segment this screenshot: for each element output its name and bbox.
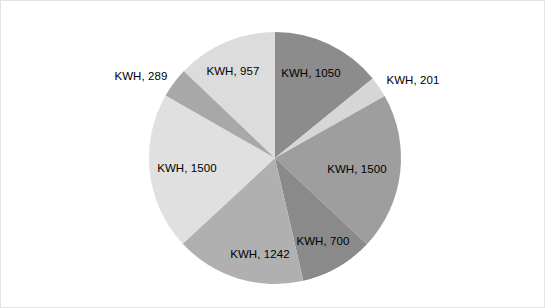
pie-chart-svg	[1, 1, 545, 308]
pie-slice-label: KWH, 201	[386, 74, 439, 86]
pie-chart-plot-area: KWH, 1050KWH, 201KWH, 1500KWH, 700KWH, 1…	[1, 1, 545, 308]
pie-slice-label: KWH, 1500	[327, 163, 387, 175]
pie-slice-label: KWH, 1500	[157, 162, 217, 174]
pie-slice-label: KWH, 957	[206, 65, 259, 77]
pie-slice-label: KWH, 700	[296, 235, 349, 247]
pie-slice-label: KWH, 289	[114, 70, 167, 82]
pie-slice-label: KWH, 1242	[230, 248, 290, 260]
chart-frame: KWH, 1050KWH, 201KWH, 1500KWH, 700KWH, 1…	[0, 0, 545, 308]
pie-slice-label: KWH, 1050	[281, 67, 341, 79]
